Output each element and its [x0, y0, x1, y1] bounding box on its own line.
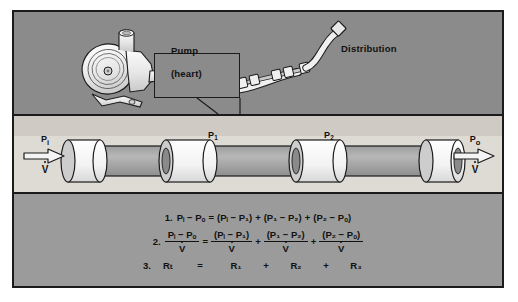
equation-1-op-1: +	[252, 212, 264, 223]
equation-3-op-1: +	[253, 260, 279, 271]
distribution-label: Distribution	[341, 43, 397, 54]
equation-2-term-3-fraction: (P₂ − Pₒ) V	[319, 230, 363, 253]
pump-label: Pump (heart)	[171, 45, 202, 91]
inlet-flow-group: Pi V	[22, 134, 68, 175]
macro-panel: Pump (heart) Distribution	[14, 12, 502, 114]
equation-3-term-1: R₁	[219, 260, 253, 271]
pressure-label-p1-sub: 1	[214, 134, 218, 141]
series-tube-illustration	[14, 116, 502, 194]
equation-2-lhs-denominator: V	[179, 242, 185, 254]
equation-1-term-2: (P₁ − P₂)	[264, 212, 302, 223]
equation-1-term-1: (Pᵢ − P₁)	[217, 212, 252, 223]
equation-2-op-1: +	[252, 236, 264, 247]
equation-2-equals: =	[199, 236, 211, 247]
equation-2-op-2: +	[308, 236, 320, 247]
equation-3: 3. Rₜ = R₁ + R₂ + R₃	[14, 260, 502, 271]
pressure-label-p2: P2	[324, 130, 334, 140]
callout-leader-lines	[14, 12, 502, 130]
figure-root: Pump (heart) Distribution	[0, 0, 518, 302]
equation-2-term-1-denominator: V	[228, 242, 234, 254]
outlet-pressure-sub: o	[476, 138, 481, 147]
equation-2-number: 2.	[153, 236, 161, 247]
equation-3-term-2: R₂	[279, 260, 313, 271]
equation-3-equals: =	[181, 260, 219, 271]
equation-2-term-2-fraction: (P₁ − P₂) V	[264, 230, 308, 253]
equation-1-lhs: Pᵢ − Pₒ	[177, 212, 206, 223]
equation-1: 1. Pᵢ − Pₒ = (Pᵢ − P₁) + (P₁ − P₂) + (P₂…	[14, 212, 502, 223]
outlet-flow-group: Po V	[452, 134, 498, 175]
inlet-pressure-label: Pi	[22, 134, 68, 148]
tube-panel: Pi V Po V	[14, 114, 502, 192]
equation-list: 1. Pᵢ − Pₒ = (Pᵢ − P₁) + (P₁ − P₂) + (P₂…	[14, 196, 502, 271]
pump-label-line2: (heart)	[171, 68, 202, 79]
equation-1-number: 1.	[165, 212, 173, 223]
pump-label-line1: Pump	[171, 45, 198, 56]
pressure-label-p2-sub: 2	[330, 134, 334, 141]
outlet-pressure-label: Po	[452, 134, 498, 148]
equation-2-lhs-fraction: Pᵢ − Pₒ V	[165, 230, 200, 253]
equation-3-lhs: Rₜ	[155, 260, 181, 271]
equation-3-term-3: R₃	[339, 260, 373, 271]
equation-3-number: 3.	[143, 260, 151, 271]
equation-2: 2. Pᵢ − Pₒ V = (Pᵢ − P₁) V + (P₁ − P₂) V…	[14, 230, 502, 253]
equation-1-equals: =	[205, 212, 217, 223]
equation-2-term-2-denominator: V	[283, 242, 289, 254]
inlet-flow-label: V	[22, 164, 68, 175]
equation-3-op-2: +	[313, 260, 339, 271]
equation-1-op-2: +	[302, 212, 314, 223]
figure-frame: Pump (heart) Distribution	[12, 10, 504, 288]
equation-1-term-3: (P₂ − Pₒ)	[313, 212, 351, 223]
outlet-flow-label: V	[452, 164, 498, 175]
equation-2-term-3-denominator: V	[338, 242, 344, 254]
pressure-label-p1: P1	[208, 130, 218, 140]
equation-2-term-1-fraction: (Pᵢ − P₁) V	[211, 230, 252, 253]
inlet-pressure-sub: i	[47, 138, 49, 147]
